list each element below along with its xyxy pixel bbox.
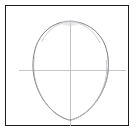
- sketch-echo-right-secondary: [71, 60, 107, 120]
- sketch-echo-left: [34, 57, 69, 120]
- drawing-canvas: [0, 0, 137, 135]
- head-construction-drawing: [0, 0, 137, 135]
- drawing-screenshot: [0, 0, 137, 135]
- graphite-smudge: [61, 20, 79, 26]
